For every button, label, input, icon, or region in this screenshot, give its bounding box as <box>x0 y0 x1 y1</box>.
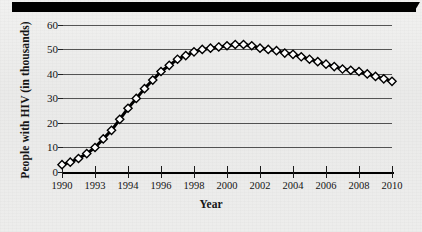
data-point-marker <box>338 65 346 73</box>
data-point-marker <box>256 44 264 52</box>
series-markers <box>58 40 396 168</box>
y-axis-title: People with HIV (in thousands) <box>19 15 31 185</box>
data-point-marker <box>206 44 214 52</box>
data-point-marker <box>314 58 322 66</box>
scanned-page: People with HIV (in thousands) 010203040… <box>0 0 422 232</box>
y-tick-label: 30 <box>47 92 58 104</box>
data-point-marker <box>347 66 355 74</box>
x-axis-title: Year <box>0 198 422 210</box>
x-tick-label: 2004 <box>283 180 304 191</box>
data-series-hiv <box>62 20 392 172</box>
y-tick-label: 50 <box>47 43 58 55</box>
data-point-marker <box>239 40 247 48</box>
data-point-marker <box>231 40 239 48</box>
y-tick-label: 10 <box>47 141 58 153</box>
data-point-marker <box>281 49 289 57</box>
x-tick-label: 1996 <box>151 180 172 191</box>
x-tick-label: 1998 <box>184 180 205 191</box>
x-tick-label: 1993 <box>85 180 106 191</box>
data-point-marker <box>289 50 297 58</box>
data-point-marker <box>58 161 66 169</box>
data-point-marker <box>322 60 330 68</box>
data-point-marker <box>297 53 305 61</box>
x-tick-label: 2010 <box>382 180 403 191</box>
x-axis-line <box>62 172 394 174</box>
data-point-marker <box>363 70 371 78</box>
data-point-marker <box>380 75 388 83</box>
data-point-marker <box>355 67 363 75</box>
x-tick-label: 2000 <box>217 180 238 191</box>
top-rule-bar <box>12 2 416 12</box>
data-point-marker <box>388 77 396 85</box>
data-point-marker <box>371 72 379 80</box>
x-tick-label: 1990 <box>52 180 73 191</box>
x-tick-label: 2008 <box>349 180 370 191</box>
x-tick-label: 1994 <box>118 180 139 191</box>
y-tick-label: 40 <box>47 68 58 80</box>
data-point-marker <box>223 42 231 50</box>
plot-area: 0102030405060 19901993199419961998200020… <box>62 20 392 172</box>
y-tick-label: 60 <box>47 19 58 31</box>
x-tick-label: 2002 <box>250 180 271 191</box>
x-tick-mark <box>392 166 393 178</box>
x-tick-label: 2006 <box>316 180 337 191</box>
data-point-marker <box>305 55 313 63</box>
data-point-marker <box>198 45 206 53</box>
series-line <box>62 45 392 165</box>
data-point-marker <box>264 45 272 53</box>
chart-figure: People with HIV (in thousands) 010203040… <box>0 12 422 232</box>
data-point-marker <box>248 42 256 50</box>
data-point-marker <box>330 62 338 70</box>
data-point-marker <box>272 47 280 55</box>
data-point-marker <box>215 43 223 51</box>
y-tick-label: 20 <box>47 117 58 129</box>
